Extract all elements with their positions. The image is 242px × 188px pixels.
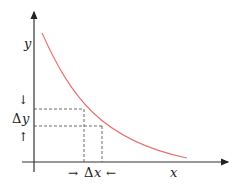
delta-y-symbol: Δ — [12, 111, 21, 126]
delta-y-var: y — [21, 111, 30, 126]
diagram-canvas: y x ↓ Δ y ↑ → Δ x ← — [0, 0, 242, 188]
delta-x-right-arrow-icon: ← — [106, 166, 116, 180]
decreasing-curve — [42, 33, 187, 158]
delta-x-symbol: Δ — [84, 165, 93, 180]
delta-x-left-arrow-icon: → — [68, 166, 78, 180]
delta-x-var: x — [94, 165, 102, 180]
y-axis-label: y — [23, 36, 32, 51]
dashed-guides — [34, 109, 102, 162]
delta-y-bottom-arrow-icon: ↑ — [18, 130, 28, 144]
delta-y-top-arrow-icon: ↓ — [18, 93, 28, 107]
x-axis-label: x — [170, 165, 178, 180]
